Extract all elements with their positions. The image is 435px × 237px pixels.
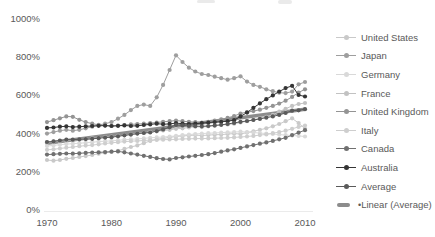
data-point-canada (245, 144, 249, 148)
data-point-united-states (129, 145, 133, 149)
data-point-japan (45, 132, 49, 136)
data-point-average (77, 137, 81, 141)
data-point-canada (109, 150, 113, 154)
x-tick-label: 2010 (288, 217, 322, 228)
data-point-united-kingdom (71, 115, 75, 119)
data-point-canada (290, 133, 294, 137)
legend-item-united-kingdom[interactable]: United Kingdom (336, 102, 435, 121)
data-point-italy (155, 138, 159, 142)
data-point-united-kingdom (58, 116, 62, 120)
data-point-australia (77, 125, 81, 129)
legend-item-united-states[interactable]: United States (336, 28, 435, 47)
data-point-france (174, 127, 178, 131)
data-point-united-states (45, 158, 49, 162)
data-point-average (245, 119, 249, 123)
data-point-canada (64, 151, 68, 155)
data-point-germany (180, 133, 184, 137)
data-point-canada (193, 154, 197, 158)
y-tick-label: 800% (2, 52, 40, 62)
data-point-italy (103, 141, 107, 145)
data-point-australia (135, 124, 139, 128)
data-point-italy (213, 136, 217, 140)
data-point-canada (219, 150, 223, 154)
data-point-italy (161, 138, 165, 142)
legend-item-canada[interactable]: Canada (336, 140, 435, 159)
data-point-canada (303, 128, 307, 132)
data-point-italy (51, 147, 55, 151)
data-point-italy (129, 139, 133, 143)
data-point-australia (51, 125, 55, 129)
data-point-average (303, 107, 307, 111)
data-point-united-kingdom (277, 102, 281, 106)
data-point-italy (77, 144, 81, 148)
data-point-italy (238, 135, 242, 139)
legend-label: Canada (361, 143, 394, 154)
data-point-united-states (71, 156, 75, 160)
data-point-japan (161, 83, 165, 87)
data-point-germany (226, 130, 230, 134)
data-point-japan (303, 80, 307, 84)
data-point-average (174, 123, 178, 127)
line-chart: 0%200%400%600%800%1000% 1970198019902000… (0, 0, 435, 237)
data-point-average (258, 117, 262, 121)
legend-item-france[interactable]: France (336, 84, 435, 103)
data-point-australia (277, 90, 281, 94)
data-point-japan (148, 104, 152, 108)
data-point-france (284, 107, 288, 111)
data-point-japan (129, 108, 133, 112)
data-point-japan (290, 90, 294, 94)
data-point-average (58, 138, 62, 142)
data-point-italy (187, 137, 191, 141)
data-point-average (187, 124, 191, 128)
y-tick-label: 400% (2, 129, 40, 139)
data-point-average (116, 134, 120, 138)
data-point-australia (303, 94, 307, 98)
data-point-italy (277, 130, 281, 134)
data-point-canada (129, 151, 133, 155)
legend-dot-icon (344, 128, 349, 133)
y-tick-label: 600% (2, 90, 40, 100)
data-point-canada (206, 152, 210, 156)
data-point-australia (238, 114, 242, 118)
data-point-average (64, 138, 68, 142)
data-point-france (303, 101, 307, 105)
data-point-canada (297, 131, 301, 135)
data-point-average (103, 136, 107, 140)
legend-item-germany[interactable]: Germany (336, 65, 435, 84)
legend-item-japan[interactable]: Japan (336, 47, 435, 66)
data-point-japan (135, 104, 139, 108)
data-point-united-states (277, 122, 281, 126)
data-point-canada (45, 153, 49, 157)
data-point-japan (226, 78, 230, 82)
data-point-canada (142, 154, 146, 158)
data-point-average (129, 133, 133, 137)
legend-item-australia[interactable]: Australia (336, 158, 435, 177)
line-marker-icon (336, 163, 356, 172)
data-point-italy (109, 141, 113, 145)
data-point-united-states (51, 159, 55, 163)
x-tick-label: 1970 (30, 217, 64, 228)
data-point-united-kingdom (264, 106, 268, 110)
data-point-australia (155, 122, 159, 126)
legend-item-italy[interactable]: Italy (336, 121, 435, 140)
data-point-germany (200, 132, 204, 136)
data-point-italy (84, 144, 88, 148)
data-point-germany (213, 131, 217, 135)
data-point-italy (219, 136, 223, 140)
data-point-canada (213, 151, 217, 155)
data-point-canada (51, 152, 55, 156)
data-point-japan (219, 76, 223, 80)
data-point-united-states (135, 143, 139, 147)
legend-dot-icon (344, 165, 349, 170)
line-marker-icon (336, 33, 356, 42)
legend-item-average[interactable]: Average (336, 177, 435, 196)
data-point-australia (290, 84, 294, 88)
data-point-australia (58, 125, 62, 129)
x-tick-label: 2000 (224, 217, 258, 228)
legend-item-linear-average[interactable]: •Linear (Average) (336, 195, 435, 214)
data-point-japan (142, 103, 146, 107)
data-point-united-kingdom (271, 104, 275, 108)
legend-label: France (361, 88, 391, 99)
data-point-italy (290, 127, 294, 131)
data-point-japan (245, 80, 249, 84)
